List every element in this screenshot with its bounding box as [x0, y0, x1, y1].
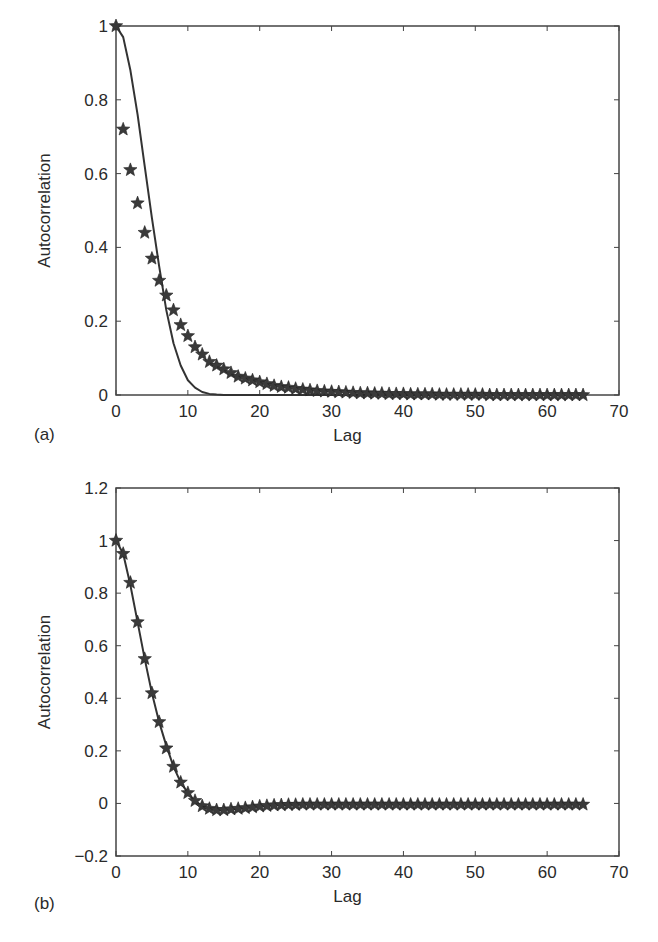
y-tick-label: 0.8: [84, 584, 108, 603]
y-axis-label: Autocorrelation: [35, 615, 54, 729]
x-tick-label: 10: [178, 863, 197, 882]
panel-label: (a): [34, 425, 55, 444]
x-tick-label: 20: [250, 402, 269, 421]
x-tick-label: 30: [322, 402, 341, 421]
x-tick-label: 40: [394, 402, 413, 421]
series-markers-estimated: [109, 19, 589, 401]
star-marker-icon: [174, 318, 187, 331]
y-tick-label: 0.6: [84, 637, 108, 656]
series-line-theoretical: [116, 541, 583, 810]
y-tick-label: 0.2: [84, 742, 108, 761]
x-axis-label: Lag: [333, 887, 361, 906]
star-marker-icon: [117, 122, 130, 135]
y-tick-label: 0.6: [84, 165, 108, 184]
y-tick-label: 0.4: [84, 238, 108, 257]
y-tick-label: 1: [99, 17, 108, 36]
y-tick-label: 0.4: [84, 689, 108, 708]
x-tick-label: 70: [610, 863, 629, 882]
x-tick-label: 40: [394, 863, 413, 882]
star-marker-icon: [188, 340, 201, 353]
x-tick-label: 60: [538, 863, 557, 882]
star-marker-icon: [167, 303, 180, 316]
y-tick-label: 1.2: [84, 479, 108, 498]
y-tick-label: 0.2: [84, 312, 108, 331]
y-tick-label: 0.8: [84, 91, 108, 110]
x-tick-label: 10: [178, 402, 197, 421]
autocorrelation-chart-b: 010203040506070−0.200.20.40.60.811.2LagA…: [0, 465, 658, 942]
panel-label: (b): [34, 894, 55, 913]
y-tick-label: −0.2: [74, 847, 108, 866]
y-axis-label: Autocorrelation: [35, 153, 54, 267]
x-axis-label: Lag: [333, 426, 361, 445]
chart-panel-b: 010203040506070−0.200.20.40.60.811.2LagA…: [0, 465, 658, 942]
star-marker-icon: [174, 775, 187, 788]
x-tick-label: 0: [111, 402, 120, 421]
star-marker-icon: [160, 741, 173, 754]
star-marker-icon: [160, 288, 173, 301]
x-tick-label: 0: [111, 863, 120, 882]
y-tick-label: 1: [99, 532, 108, 551]
x-tick-label: 50: [466, 402, 485, 421]
y-tick-label: 0: [99, 386, 108, 405]
x-tick-label: 30: [322, 863, 341, 882]
y-tick-label: 0: [99, 794, 108, 813]
x-tick-label: 50: [466, 863, 485, 882]
star-marker-icon: [138, 226, 151, 239]
autocorrelation-chart-a: 01020304050607000.20.40.60.81LagAutocorr…: [0, 0, 658, 465]
star-marker-icon: [181, 329, 194, 342]
x-tick-label: 70: [610, 402, 629, 421]
x-tick-label: 20: [250, 863, 269, 882]
star-marker-icon: [153, 715, 166, 728]
chart-panel-a: 01020304050607000.20.40.60.81LagAutocorr…: [0, 0, 658, 465]
x-tick-label: 60: [538, 402, 557, 421]
star-marker-icon: [131, 196, 144, 209]
series-markers-estimated: [109, 534, 589, 816]
star-marker-icon: [124, 163, 137, 176]
star-marker-icon: [167, 760, 180, 773]
star-marker-icon: [153, 274, 166, 287]
